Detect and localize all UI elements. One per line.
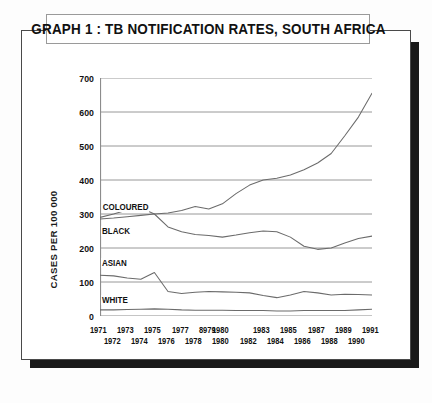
- series-label-asian: ASIAN: [101, 258, 128, 268]
- x-tick-label: 1974: [131, 336, 148, 346]
- chart-canvas: [100, 78, 372, 316]
- series-line-asian: [100, 272, 372, 297]
- x-tick-label: 1988: [321, 336, 338, 346]
- series-label-white: WHITE: [101, 295, 129, 305]
- plot-area: [100, 78, 372, 316]
- x-tick-label: 1986: [294, 336, 311, 346]
- x-tick-label: 1985: [280, 325, 297, 335]
- x-tick-label: 1977: [172, 325, 189, 335]
- y-tick-label: 700: [70, 73, 94, 84]
- page-title: GRAPH 1 : TB NOTIFICATION RATES, SOUTH A…: [31, 21, 385, 37]
- y-tick-label: 600: [70, 107, 94, 118]
- frame-shadow-bottom: [30, 360, 419, 368]
- x-tick-label: 1971: [90, 325, 107, 335]
- x-tick-label: 1984: [267, 336, 284, 346]
- x-tick-label: 1973: [117, 325, 134, 335]
- series-line-white: [100, 309, 372, 311]
- x-tick-label: 1991: [362, 325, 379, 335]
- graph-figure: GRAPH 1 : TB NOTIFICATION RATES, SOUTH A…: [0, 0, 432, 403]
- x-tick-label: 1976: [158, 336, 175, 346]
- x-tick-label: 1978: [185, 336, 202, 346]
- y-axis-label-text: CASES PER 100 000: [48, 180, 59, 300]
- y-tick-label: 300: [70, 209, 94, 220]
- chart-title-plaque: GRAPH 1 : TB NOTIFICATION RATES, SOUTH A…: [46, 14, 370, 44]
- series-label-black: BLACK: [101, 226, 131, 236]
- x-tick-label: 1983: [253, 325, 270, 335]
- y-tick-label: 100: [70, 277, 94, 288]
- y-tick-label: 500: [70, 141, 94, 152]
- series-label-coloured: COLOURED: [102, 202, 150, 212]
- x-tick-label: 1990: [348, 336, 365, 346]
- y-tick-label: 0: [70, 311, 94, 322]
- x-tick-label: 1987: [308, 325, 325, 335]
- y-tick-label: 200: [70, 243, 94, 254]
- y-axis-label: CASES PER 100 000: [42, 180, 64, 300]
- x-tick-label: 1982: [240, 336, 257, 346]
- x-tick-label: 1975: [144, 325, 161, 335]
- x-tick-label: 1980: [212, 325, 229, 335]
- y-tick-label: 400: [70, 175, 94, 186]
- x-tick-label: 1972: [104, 336, 121, 346]
- x-tick-label: 1989: [335, 325, 352, 335]
- x-tick-label: 1980: [212, 336, 229, 346]
- frame-shadow-right: [411, 42, 419, 368]
